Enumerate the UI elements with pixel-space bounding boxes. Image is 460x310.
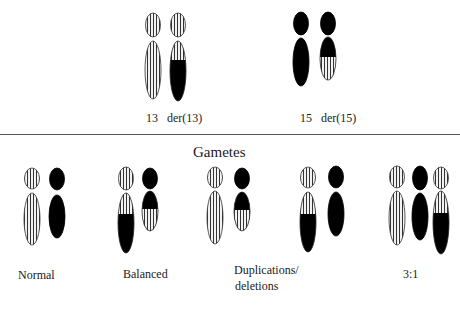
short-arm	[413, 166, 428, 190]
long-arm	[207, 191, 223, 244]
short-arm	[329, 166, 344, 188]
gamete-dupdel1-der15	[233, 168, 251, 232]
chromosome-13	[145, 13, 161, 99]
short-arm	[208, 167, 223, 188]
short-arm	[146, 13, 161, 37]
gamete-balanced-der15	[141, 168, 159, 232]
gamete-31-der13	[432, 167, 450, 255]
long-arm-upper	[169, 40, 187, 60]
long-arm-lower	[141, 209, 159, 232]
label-chr15: 15	[300, 111, 312, 125]
long-arm-lower	[169, 60, 187, 102]
long-arm	[49, 195, 65, 238]
gamete-balanced-der13	[117, 167, 135, 254]
short-arm	[143, 168, 158, 189]
gamete-31-13	[389, 166, 405, 245]
long-arm	[145, 41, 161, 99]
label-dup-del-2: deletions	[235, 279, 278, 293]
short-arm	[294, 12, 309, 35]
short-arm	[50, 168, 65, 190]
label-normal: Normal	[18, 268, 55, 282]
gamete-31-15	[412, 166, 428, 240]
label-three-one: 3:1	[403, 267, 418, 281]
short-arm	[321, 12, 336, 35]
short-arm	[390, 166, 405, 188]
short-arm	[119, 167, 134, 190]
chromosome-der15	[319, 12, 337, 81]
short-arm	[235, 168, 250, 189]
short-arm	[301, 167, 316, 188]
long-arm-lower	[319, 57, 337, 81]
label-balanced: Balanced	[123, 267, 168, 281]
gamete-normal-15	[49, 168, 65, 238]
long-arm-lower	[299, 214, 317, 253]
long-arm	[389, 191, 405, 245]
long-arm	[412, 193, 428, 240]
chromosome-15	[293, 12, 309, 86]
gamete-dupdel1-13	[207, 167, 223, 244]
long-arm-lower	[117, 214, 135, 254]
short-arm	[25, 168, 40, 189]
chromosome-der13	[169, 13, 187, 102]
long-arm-lower	[432, 213, 450, 255]
gamete-dupdel2-der13	[299, 167, 317, 253]
short-arm	[434, 167, 449, 189]
long-arm-lower	[233, 210, 251, 232]
long-arm	[24, 193, 40, 245]
long-arm	[328, 192, 344, 236]
label-chr13: 13	[146, 111, 158, 125]
label-der15: der(15)	[321, 111, 356, 125]
label-dup-del-1: Duplications/	[234, 263, 299, 277]
gamete-dupdel2-15	[328, 166, 344, 236]
gamete-normal-13	[24, 168, 40, 245]
label-der13: der(13)	[167, 111, 202, 125]
short-arm	[171, 13, 186, 37]
long-arm	[293, 38, 309, 86]
section-divider	[0, 134, 460, 135]
gametes-title: Gametes	[193, 144, 245, 161]
